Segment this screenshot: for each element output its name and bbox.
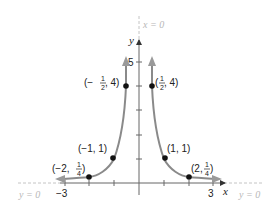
label-neg-half-4: (− 1 2 , 4) xyxy=(84,75,119,91)
horizontal-asymptote-right-label: y = 0 xyxy=(238,189,260,200)
label-half-4: ( 1 2 , 4) xyxy=(155,75,178,91)
svg-text:1: 1 xyxy=(77,161,81,168)
point-neg1-1 xyxy=(110,155,116,161)
svg-text:(−: (− xyxy=(84,77,93,88)
point-1-1 xyxy=(162,155,168,161)
label-1-1: (1, 1) xyxy=(167,143,190,154)
curve-left-out-arrow-icon xyxy=(55,175,65,183)
x-tick-label-neg3: −3 xyxy=(56,188,68,199)
curve-right-up-arrow-icon xyxy=(148,56,156,66)
point-neg2-quarter xyxy=(86,174,92,180)
svg-text:(−2,: (−2, xyxy=(52,163,70,174)
point-neg-half-4 xyxy=(123,83,129,89)
svg-text:1: 1 xyxy=(205,161,209,168)
svg-text:(: ( xyxy=(155,77,159,88)
svg-text:): ) xyxy=(82,163,85,174)
point-half-4 xyxy=(149,83,155,89)
y-tick-label-5: 5 xyxy=(128,57,134,68)
x-tick-label-3: 3 xyxy=(208,188,214,199)
graph-y-equals-one-over-x-squared: x = 0 y = 0 y = 0 x y −3 3 5 ( xyxy=(0,0,276,209)
y-axis-label: y xyxy=(128,34,134,46)
svg-text:4: 4 xyxy=(205,170,209,177)
svg-text:, 4): , 4) xyxy=(164,77,178,88)
label-neg1-1: (−1, 1) xyxy=(78,143,107,154)
label-2-quarter: (2, 1 4 ) xyxy=(191,161,213,177)
curve-right-out-arrow-icon xyxy=(212,175,222,183)
point-2-quarter xyxy=(186,174,192,180)
x-axis-label: x xyxy=(222,185,228,197)
label-neg2-quarter: (−2, 1 4 ) xyxy=(52,161,85,177)
svg-text:4: 4 xyxy=(77,170,81,177)
svg-text:, 4): , 4) xyxy=(105,77,119,88)
svg-text:(2,: (2, xyxy=(191,163,203,174)
vertical-asymptote-label: x = 0 xyxy=(142,19,164,30)
horizontal-asymptote-left-label: y = 0 xyxy=(18,189,40,200)
svg-text:): ) xyxy=(210,163,213,174)
